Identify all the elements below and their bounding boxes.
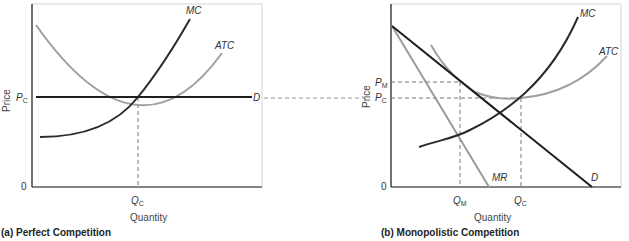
panel-a-y-axis-title: Price <box>1 89 12 112</box>
panel-perfect-competition: MC ATC D 0 PC Price QC Quantity (a) Perf… <box>1 4 370 238</box>
panel-b-y-axis-title: Price <box>361 85 372 108</box>
panel-b-x-axis-title: Quantity <box>474 212 511 223</box>
panel-b-pc-label: PC <box>375 92 387 104</box>
panel-a-atc-curve <box>36 25 222 105</box>
panel-b-frame <box>391 4 621 187</box>
panel-a-caption: (a) Perfect Competition <box>1 227 111 238</box>
panel-a-pc-label: PC <box>16 92 28 104</box>
panel-a-mc-curve <box>40 19 190 137</box>
panel-b-atc-curve <box>431 45 607 99</box>
competition-diagram: MC ATC D 0 PC Price QC Quantity (a) Perf… <box>0 0 629 241</box>
panel-a-qc-label: QC <box>131 195 144 207</box>
panel-b-qc-label: QC <box>514 195 527 207</box>
panel-a-atc-label: ATC <box>214 40 235 51</box>
panel-b-atc-label: ATC <box>598 46 619 57</box>
panel-b-mr-curve <box>392 26 489 187</box>
panel-b-mc-label: MC <box>580 8 596 19</box>
panel-b-qm-label: QM <box>453 195 467 207</box>
panel-monopolistic-competition: MC ATC MR D 0 PM PC Price QM QC Quantity… <box>361 4 621 238</box>
panel-a-origin-label: 0 <box>21 181 27 192</box>
panel-b-origin-label: 0 <box>381 181 387 192</box>
panel-b-caption: (b) Monopolistic Competition <box>381 227 519 238</box>
panel-b-pm-label: PM <box>375 77 388 89</box>
panel-b-mr-label: MR <box>492 172 508 183</box>
panel-a-d-label: D <box>253 92 260 103</box>
panel-a-x-axis-title: Quantity <box>130 212 167 223</box>
panel-b-demand-curve <box>392 26 592 187</box>
panel-a-mc-label: MC <box>186 5 202 16</box>
panel-b-d-label: D <box>591 172 598 183</box>
panel-a-frame <box>32 4 262 187</box>
